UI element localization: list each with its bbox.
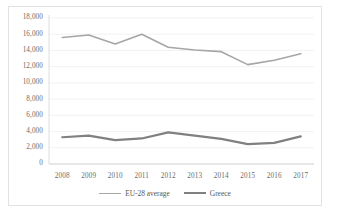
y-axis-tick-label: 2,000 [9,144,43,151]
x-axis-tick-label: 2017 [288,173,315,180]
y-axis-tick-label: 6,000 [9,112,43,119]
legend-item-greece[interactable]: Greece [184,190,231,197]
y-axis-tick-label: 12,000 [9,63,43,70]
series-line [62,34,301,64]
x-axis-tick-label: 2010 [102,173,129,180]
x-axis-tick-label: 2011 [129,173,156,180]
y-axis-tick-label: 14,000 [9,47,43,54]
x-axis-tick-label: 2014 [208,173,235,180]
series-line [62,132,301,144]
y-axis-tick-label: 0 [9,160,43,167]
y-axis-tick-label: 8,000 [9,96,43,103]
y-axis-tick-label: 16,000 [9,31,43,38]
legend-label-greece: Greece [210,190,231,197]
x-axis-tick-label: 2016 [261,173,288,180]
x-axis-tick-label: 2008 [49,173,76,180]
chart-legend: EU-28 average Greece [9,190,321,197]
chart-container: 18,00016,00014,00012,00010,0008,0006,000… [8,6,322,206]
x-axis-tick-label: 2013 [182,173,209,180]
legend-label-eu-28-average: EU-28 average [125,190,170,197]
y-axis-tick-label: 18,000 [9,14,43,21]
legend-swatch-eu-28-average [99,193,121,194]
legend-swatch-greece [184,192,206,194]
x-axis-tick-label: 2009 [76,173,103,180]
y-axis-tick-label: 10,000 [9,79,43,86]
x-axis-tick-label: 2012 [155,173,182,180]
y-axis-tick-label: 4,000 [9,128,43,135]
x-axis-tick-label: 2015 [235,173,262,180]
legend-item-eu-28-average[interactable]: EU-28 average [99,190,170,197]
